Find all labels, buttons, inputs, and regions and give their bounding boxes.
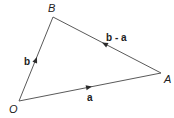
point-label-a: A [163, 73, 171, 85]
point-label-o: O [9, 103, 18, 115]
vector-label-a: a [87, 92, 93, 103]
vector-label-b-minus-a: b - a [106, 32, 127, 43]
vector-triangle-diagram: O B A b a b - a [0, 0, 174, 118]
vector-label-b: b [24, 56, 30, 67]
point-label-b: B [48, 2, 55, 14]
arrowhead-b-icon [32, 56, 39, 63]
